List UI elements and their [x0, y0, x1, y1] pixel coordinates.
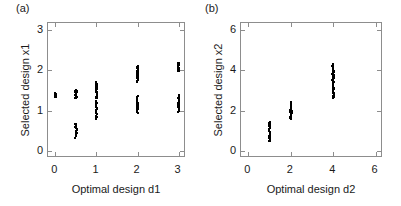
data-point [95, 112, 97, 114]
data-point [177, 111, 179, 113]
data-point [332, 71, 334, 73]
data-point [290, 107, 292, 109]
data-point [137, 78, 139, 80]
data-point [137, 68, 139, 70]
data-point [269, 121, 271, 123]
data-point [95, 81, 97, 83]
data-point [137, 68, 139, 70]
y-tick-mark [48, 111, 52, 112]
data-point [95, 105, 97, 107]
data-point [333, 96, 335, 98]
data-point [178, 96, 180, 98]
x-tick-mark [96, 23, 97, 27]
data-point [177, 62, 179, 64]
y-tick-mark [377, 70, 381, 71]
x-tick-label: 0 [51, 163, 57, 175]
data-point [333, 81, 335, 83]
data-point [178, 95, 180, 97]
data-point [95, 115, 97, 117]
x-tick-mark [96, 152, 97, 156]
x-tick-label: 2 [133, 163, 139, 175]
data-point [177, 68, 179, 70]
data-point [95, 103, 97, 105]
data-point [178, 101, 180, 103]
data-point [291, 112, 293, 114]
data-point [75, 131, 77, 133]
data-point [268, 130, 270, 132]
data-point [96, 108, 98, 110]
data-point [74, 126, 76, 128]
x-tick-mark [138, 23, 139, 27]
y-tick-label: 0 [222, 144, 236, 156]
data-point [177, 65, 179, 67]
data-point [74, 137, 76, 139]
data-point [290, 118, 292, 120]
data-point [137, 71, 139, 73]
data-point [54, 92, 56, 94]
data-point [177, 106, 179, 108]
data-point [269, 123, 271, 125]
data-point [269, 138, 271, 140]
data-point [269, 131, 271, 133]
data-point [332, 64, 334, 66]
data-point [269, 124, 271, 126]
data-point [75, 97, 77, 99]
data-point [331, 65, 333, 67]
data-point [332, 76, 334, 78]
data-point [96, 97, 98, 99]
data-point [290, 108, 292, 110]
data-point [178, 63, 180, 65]
data-point [75, 133, 77, 135]
data-point [289, 109, 291, 111]
data-point [96, 88, 98, 90]
data-point [95, 109, 97, 111]
data-point [96, 102, 98, 104]
panel-a: (a) 01230123Optimal design d1Selected de… [0, 0, 200, 206]
data-point [290, 117, 292, 119]
data-point [55, 96, 57, 98]
data-point [332, 97, 334, 99]
data-point [332, 90, 334, 92]
data-point [178, 64, 180, 66]
data-point [178, 94, 180, 96]
data-point [178, 108, 180, 110]
y-tick-mark [180, 30, 184, 31]
data-point [54, 96, 56, 98]
data-point [290, 104, 292, 106]
data-point [332, 88, 334, 90]
data-point [55, 93, 57, 95]
y-tick-mark [48, 30, 52, 31]
data-point [75, 95, 77, 97]
data-point [331, 79, 333, 81]
x-tick-mark [291, 152, 292, 156]
data-point [290, 114, 292, 116]
data-point [96, 83, 98, 85]
data-point [332, 69, 334, 71]
data-point [76, 129, 78, 131]
data-point [136, 97, 138, 99]
data-point [136, 101, 138, 103]
data-point [75, 135, 77, 137]
data-point [290, 102, 292, 104]
y-tick-label: 6 [222, 23, 236, 35]
data-point [96, 92, 98, 94]
data-point [333, 94, 335, 96]
data-point [95, 97, 97, 99]
data-point [268, 129, 270, 131]
data-point [137, 95, 139, 97]
data-point [290, 115, 292, 117]
data-point [137, 95, 139, 97]
data-point [137, 77, 139, 79]
data-point [137, 65, 139, 67]
data-point [332, 67, 334, 69]
data-point [75, 93, 77, 95]
data-point [137, 76, 139, 78]
data-point [269, 124, 271, 126]
data-point [268, 137, 270, 139]
data-point [178, 99, 180, 101]
x-tick-label: 3 [175, 163, 181, 175]
data-point [96, 91, 98, 93]
data-point [136, 81, 138, 83]
data-point [95, 89, 97, 91]
data-point [137, 103, 139, 105]
